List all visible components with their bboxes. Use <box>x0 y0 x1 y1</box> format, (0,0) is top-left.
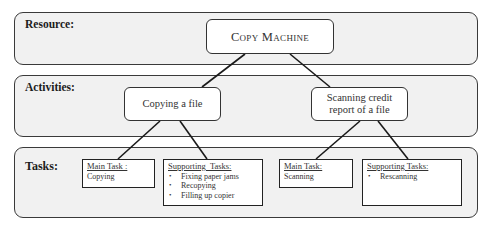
task-bullet-item: Filling up copier <box>168 191 258 201</box>
task-heading: Supporting Tasks: <box>168 162 258 172</box>
task-heading: Main Task : <box>87 162 150 172</box>
resource-band-label: Resource: <box>25 18 74 30</box>
activity-scanning-label-line2: report of a file <box>329 104 389 116</box>
task-bullet-item: Rescanning <box>367 172 457 182</box>
resource-node-label: Copy Machine <box>231 31 309 43</box>
task-bullet-list: Fixing paper jams Recopying Filling up c… <box>168 172 258 201</box>
task-item: Scanning <box>284 172 348 182</box>
resource-node-copy-machine: Copy Machine <box>206 19 334 54</box>
task-item: Copying <box>87 172 150 182</box>
task-heading: Main Task: <box>284 162 348 172</box>
activity-node-copying: Copying a file <box>124 87 221 121</box>
task-bullet-item: Recopying <box>168 181 258 191</box>
activities-band-label: Activities: <box>25 81 75 93</box>
task-bullet-item: Fixing paper jams <box>168 172 258 182</box>
task-box-scanning-main: Main Task: Scanning <box>279 159 353 188</box>
task-box-scanning-supporting: Supporting Tasks: Rescanning <box>362 159 462 206</box>
task-box-copying-main: Main Task : Copying <box>82 159 155 188</box>
activity-node-scanning: Scanning credit report of a file <box>311 87 408 121</box>
activity-copying-label: Copying a file <box>142 98 202 110</box>
activities-band: Activities: <box>14 75 478 137</box>
activity-scanning-label-line1: Scanning credit <box>327 92 393 104</box>
task-box-copying-supporting: Supporting Tasks: Fixing paper jams Reco… <box>163 159 263 206</box>
tasks-band-label: Tasks: <box>25 159 58 174</box>
task-bullet-list: Rescanning <box>367 172 457 182</box>
task-heading: Supporting Tasks: <box>367 162 457 172</box>
